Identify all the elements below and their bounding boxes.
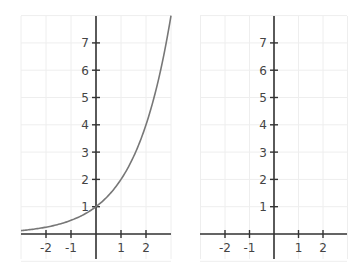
y-tick-label: 6: [259, 64, 267, 78]
y-tick-label: 1: [259, 200, 267, 214]
y-tick-label: 2: [259, 173, 267, 187]
y-tick-label: 4: [81, 118, 89, 132]
x-tick-label: 1: [117, 241, 125, 255]
y-tick-label: 3: [259, 146, 267, 160]
y-tick-label: 5: [81, 91, 89, 105]
y-tick-label: 6: [81, 64, 89, 78]
y-tick-label: 7: [259, 36, 267, 50]
y-tick-label: 5: [259, 91, 267, 105]
y-tick-label: 7: [81, 36, 89, 50]
y-tick-label: 4: [259, 118, 267, 132]
chart-panel-2: -2-1121234567: [200, 16, 348, 262]
x-tick-label: -1: [65, 241, 77, 255]
x-tick-label: 2: [319, 241, 327, 255]
x-tick-label: 1: [295, 241, 303, 255]
x-tick-label: -2: [40, 241, 52, 255]
y-tick-label: 3: [81, 146, 89, 160]
y-tick-label: 2: [81, 173, 89, 187]
x-tick-label: -2: [219, 241, 231, 255]
x-tick-label: 2: [142, 241, 150, 255]
chart-area: -2-1121234567-2-1121234567: [0, 0, 364, 270]
x-tick-label: -1: [244, 241, 256, 255]
chart-panel-1: -2-1121234567: [21, 16, 171, 262]
